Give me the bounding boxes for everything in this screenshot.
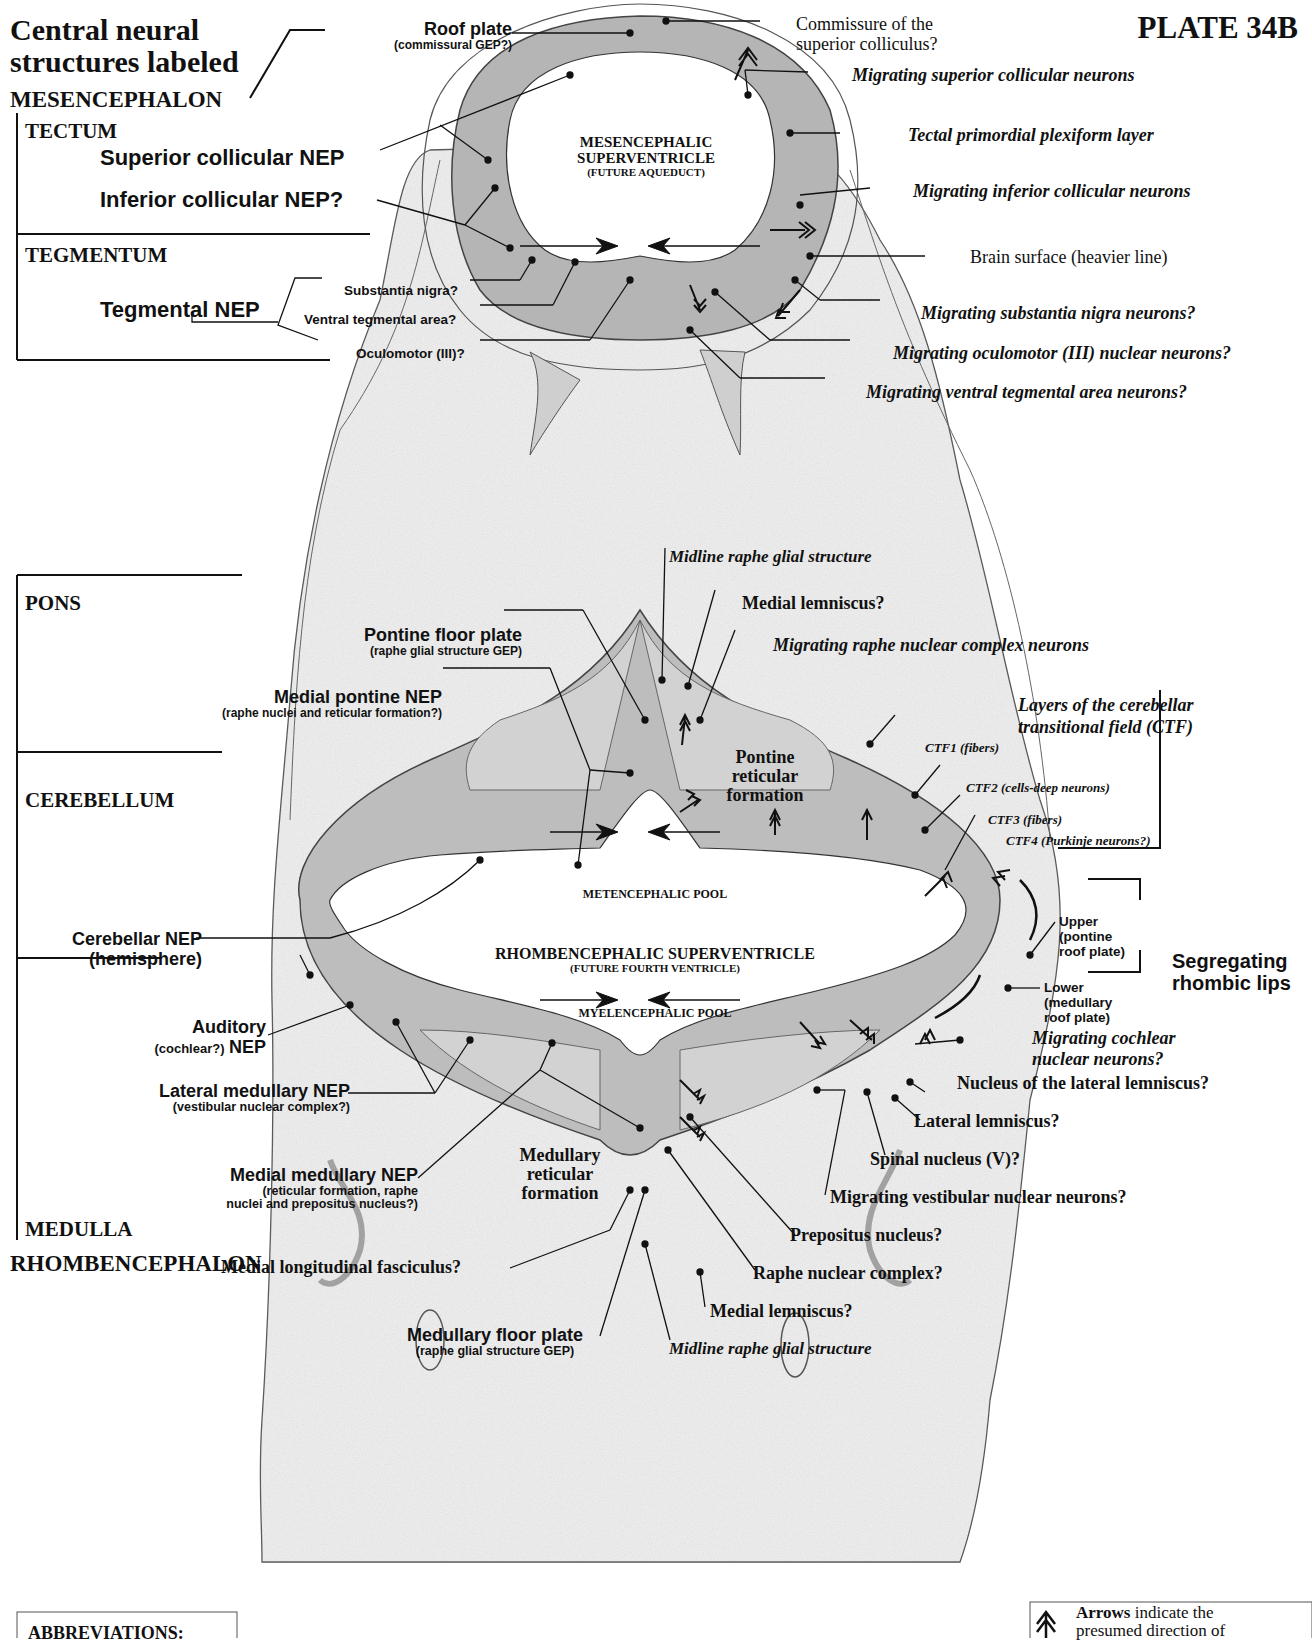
division-pons: PONS (25, 592, 81, 614)
label-medial-longitudinal-fasciculus: Medial longitudinal fasciculus? (221, 1258, 461, 1277)
label-midline-raphe-glial-pons: Midline raphe glial structure (669, 548, 872, 566)
label-substantia-nigra: Substantia nigra? (344, 284, 458, 298)
label-pontine-floor-plate: Pontine floor plate (raphe glial structu… (364, 626, 522, 657)
label-cerebellar-nep: Cerebellar NEP (hemisphere) (72, 929, 202, 969)
label-myelencephalic-pool: MYELENCEPHALIC POOL (520, 1007, 790, 1020)
label-medial-lemniscus-medulla: Medial lemniscus? (710, 1302, 853, 1321)
label-medial-medullary-nep: Medial medullary NEP (reticular formatio… (226, 1166, 418, 1211)
label-tectal-plexiform-layer: Tectal primordial plexiform layer (908, 126, 1154, 145)
label-migrating-raphe: Migrating raphe nuclear complex neurons (773, 636, 1089, 655)
label-ctf1: CTF1 (fibers) (925, 741, 999, 755)
label-commissure-superior-colliculus: Commissure of the superior colliculus? (796, 14, 937, 54)
label-raphe-nuclear-complex: Raphe nuclear complex? (753, 1264, 943, 1283)
label-medullary-floor-plate: Medullary floor plate (raphe glial struc… (380, 1326, 610, 1358)
label-oculomotor: Oculomotor (III)? (356, 347, 465, 361)
label-migrating-vestibular: Migrating vestibular nuclear neurons? (830, 1188, 1127, 1207)
label-lateral-medullary-nep: Lateral medullary NEP (vestibular nuclea… (159, 1082, 350, 1114)
label-midline-raphe-glial-medulla: Midline raphe glial structure (669, 1340, 872, 1358)
label-migrating-inferior-collicular: Migrating inferior collicular neurons (913, 182, 1191, 201)
division-medulla: MEDULLA (25, 1218, 132, 1240)
label-medial-pontine-nep: Medial pontine NEP (raphe nuclei and ret… (222, 688, 442, 719)
label-inferior-collicular-nep: Inferior collicular NEP? (100, 188, 343, 211)
division-tegmentum: TEGMENTUM (25, 244, 167, 266)
label-prepositus-nucleus: Prepositus nucleus? (790, 1226, 942, 1245)
label-ctf3: CTF3 (fibers) (988, 813, 1062, 827)
label-ctf2: CTF2 (cells-deep neurons) (966, 781, 1110, 795)
label-migrating-vta: Migrating ventral tegmental area neurons… (866, 383, 1187, 402)
label-segregating-rhombic-lips: Segregating rhombic lips (1172, 950, 1291, 994)
label-lateral-lemniscus: Lateral lemniscus? (914, 1112, 1060, 1131)
label-upper-pontine-roof-plate: Upper (pontine roof plate) (1059, 914, 1125, 959)
label-nucleus-lateral-lemniscus: Nucleus of the lateral lemniscus? (957, 1074, 1209, 1093)
division-cerebellum: CEREBELLUM (25, 789, 174, 811)
label-ctf-title: Layers of the cerebellar transitional fi… (1018, 694, 1193, 738)
label-brain-surface: Brain surface (heavier line) (970, 248, 1167, 267)
label-metencephalic-pool: METENCEPHALIC POOL (520, 888, 790, 901)
label-ctf4: CTF4 (Purkinje neurons?) (1006, 834, 1150, 848)
label-medial-lemniscus-pons: Medial lemniscus? (742, 594, 885, 613)
arrows-legend: Arrows indicate the presumed direction o… (1076, 1604, 1225, 1640)
label-migrating-oculomotor: Migrating oculomotor (III) nuclear neuro… (893, 344, 1231, 363)
label-migrating-substantia-nigra: Migrating substantia nigra neurons? (921, 304, 1196, 323)
label-migrating-cochlear: Migrating cochlear nuclear neurons? (1032, 1028, 1176, 1070)
mesencephalic-ventricle-label: MESENCEPHALIC SUPERVENTRICLE (FUTURE AQU… (560, 135, 732, 178)
label-superior-collicular-nep: Superior collicular NEP (100, 146, 345, 169)
title-line-2: structures labeled (10, 46, 239, 78)
division-tectum: TECTUM (25, 120, 117, 142)
plate-number: PLATE 34B (1138, 12, 1298, 45)
label-tegmental-nep: Tegmental NEP (100, 298, 260, 321)
label-ventral-tegmental-area: Ventral tegmental area? (304, 313, 456, 327)
label-spinal-nucleus: Spinal nucleus (V)? (870, 1150, 1020, 1169)
title-line-1: Central neural (10, 14, 239, 46)
diagram-title: Central neural structures labeled (10, 14, 239, 78)
label-lower-medullary-roof-plate: Lower (medullary roof plate) (1044, 980, 1112, 1025)
label-auditory-nep: Auditory (cochlear?) NEP (154, 1017, 266, 1059)
label-roof-plate: Roof plate (commissural GEP?) (394, 20, 512, 51)
rhombencephalic-ventricle-label: RHOMBENCEPHALIC SUPERVENTRICLE (FUTURE F… (440, 946, 870, 974)
division-mesencephalon: MESENCEPHALON (10, 88, 222, 112)
label-medullary-reticular-formation: Medullary reticular formation (510, 1146, 610, 1203)
label-pontine-reticular-formation: Pontine reticular formation (720, 748, 810, 805)
label-migrating-superior-collicular: Migrating superior collicular neurons (852, 66, 1135, 85)
abbreviations-title: ABBREVIATIONS: (28, 1624, 184, 1643)
